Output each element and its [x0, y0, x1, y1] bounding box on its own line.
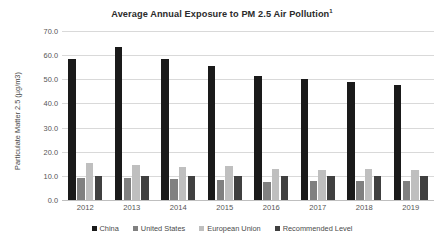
legend-label: United States — [141, 224, 185, 233]
bar-group — [295, 31, 342, 200]
chart-title: Average Annual Exposure to PM 2.5 Air Po… — [0, 9, 444, 19]
bar — [374, 176, 382, 200]
bar — [281, 176, 289, 200]
x-axis-labels: 20122013201420152016201720182019 — [62, 203, 434, 217]
bar — [170, 179, 178, 200]
pm25-exposure-bar-chart: Average Annual Exposure to PM 2.5 Air Po… — [0, 0, 444, 250]
bar — [254, 76, 262, 200]
bar — [301, 79, 309, 200]
legend-label: China — [100, 224, 119, 233]
bar — [318, 170, 326, 200]
bar — [86, 163, 94, 200]
bar — [411, 170, 419, 200]
bar — [356, 181, 364, 200]
x-axis-tick-label: 2019 — [388, 203, 435, 217]
bar — [115, 47, 123, 200]
bar — [420, 176, 428, 200]
bar-group — [341, 31, 388, 200]
bar-group — [109, 31, 156, 200]
bar — [188, 176, 196, 200]
gridline — [62, 200, 434, 201]
x-axis-tick-label: 2012 — [62, 203, 109, 217]
bar — [394, 85, 402, 200]
bar — [68, 59, 76, 200]
bar — [310, 181, 318, 200]
legend-swatch-icon — [199, 226, 204, 231]
bar — [208, 66, 216, 200]
bar — [263, 182, 271, 200]
x-axis-tick-label: 2015 — [202, 203, 249, 217]
chart-title-text: Average Annual Exposure to PM 2.5 Air Po… — [111, 9, 329, 19]
bar — [403, 181, 411, 200]
y-axis-tick-label: 40.0 — [18, 99, 58, 108]
bar — [217, 180, 225, 200]
chart-title-footnote-marker: 1 — [329, 8, 332, 14]
legend-item[interactable]: China — [92, 224, 119, 233]
legend-item[interactable]: Recommended Level — [275, 224, 353, 233]
x-axis-tick-label: 2017 — [295, 203, 342, 217]
legend-swatch-icon — [133, 226, 138, 231]
y-axis-tick-label: 0.0 — [18, 196, 58, 205]
x-axis-tick-label: 2016 — [248, 203, 295, 217]
bar — [347, 82, 355, 200]
y-axis-tick-label: 20.0 — [18, 147, 58, 156]
bar — [124, 178, 132, 200]
bar — [272, 169, 280, 200]
bar — [327, 176, 335, 200]
bar — [365, 169, 373, 200]
legend-label: Recommended Level — [283, 224, 353, 233]
y-axis-tick-label: 70.0 — [18, 27, 58, 36]
bar-groups — [62, 31, 434, 200]
bar-group — [202, 31, 249, 200]
x-axis-tick-label: 2013 — [109, 203, 156, 217]
y-axis-tick-label: 50.0 — [18, 75, 58, 84]
bar — [95, 176, 103, 200]
y-axis-tick-label: 10.0 — [18, 171, 58, 180]
bar — [179, 167, 187, 200]
x-axis-tick-label: 2018 — [341, 203, 388, 217]
chart-legend: ChinaUnited StatesEuropean UnionRecommen… — [0, 224, 444, 233]
legend-item[interactable]: European Union — [199, 224, 260, 233]
bar — [234, 176, 242, 200]
legend-swatch-icon — [275, 226, 280, 231]
bar-group — [248, 31, 295, 200]
bar — [132, 165, 140, 200]
legend-label: European Union — [207, 224, 260, 233]
bar-group — [388, 31, 435, 200]
bar — [141, 176, 149, 200]
legend-item[interactable]: United States — [133, 224, 185, 233]
legend-swatch-icon — [92, 226, 97, 231]
bar-group — [155, 31, 202, 200]
plot-area: 70.060.050.040.030.020.010.00.0 — [62, 31, 434, 200]
x-axis-tick-label: 2014 — [155, 203, 202, 217]
bar — [161, 59, 169, 200]
bar — [77, 178, 85, 200]
y-axis-tick-label: 60.0 — [18, 51, 58, 60]
bar — [225, 166, 233, 200]
bar-group — [62, 31, 109, 200]
y-axis-tick-label: 30.0 — [18, 123, 58, 132]
